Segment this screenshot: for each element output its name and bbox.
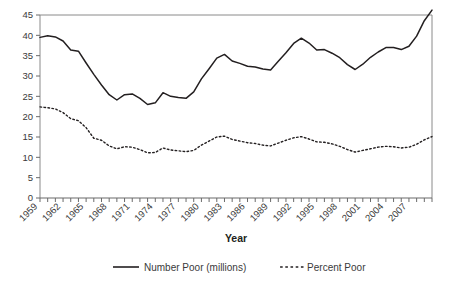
x-tick-label: 1959 <box>17 201 40 224</box>
plot-frame <box>40 15 432 198</box>
series-line-2 <box>40 107 432 153</box>
y-tick-label: 5 <box>28 172 33 183</box>
x-tick-label: 2004 <box>363 201 386 224</box>
x-tick-label: 1983 <box>201 201 224 224</box>
y-tick-label: 20 <box>22 111 33 122</box>
chart-canvas: 0510152025303540451959196219651968197119… <box>0 0 451 285</box>
x-tick-label: 1971 <box>109 201 132 224</box>
y-tick-label: 10 <box>22 152 33 163</box>
legend-label: Percent Poor <box>307 262 366 273</box>
x-tick-label: 1968 <box>86 201 109 224</box>
x-axis-title: Year <box>225 232 247 244</box>
x-tick-label: 1980 <box>178 201 201 224</box>
x-tick-label: 2001 <box>340 201 363 224</box>
y-tick-label: 15 <box>22 131 33 142</box>
x-tick-label: 1986 <box>224 201 247 224</box>
poverty-line-chart: 0510152025303540451959196219651968197119… <box>0 0 451 285</box>
legend-label: Number Poor (millions) <box>144 262 246 273</box>
x-tick-label: 2007 <box>386 201 409 224</box>
x-tick-label: 1977 <box>155 201 178 224</box>
y-tick-label: 40 <box>22 30 33 41</box>
y-tick-label: 35 <box>22 50 33 61</box>
y-tick-label: 30 <box>22 70 33 81</box>
x-tick-label: 1974 <box>132 201 155 224</box>
y-tick-label: 25 <box>22 91 33 102</box>
series-line-1 <box>40 10 432 104</box>
x-tick-label: 1992 <box>270 201 293 224</box>
x-tick-label: 1989 <box>247 201 270 224</box>
x-tick-label: 1998 <box>316 201 339 224</box>
x-tick-label: 1995 <box>293 201 316 224</box>
y-tick-label: 45 <box>22 9 33 20</box>
x-tick-label: 1962 <box>40 201 63 224</box>
x-tick-label: 1965 <box>63 201 86 224</box>
